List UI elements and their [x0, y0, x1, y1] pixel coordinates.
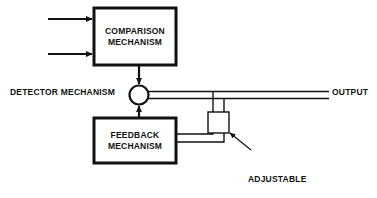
comparison-label-line2: MECHANISM — [108, 37, 162, 48]
feedback-label-line2: MECHANISM — [108, 141, 162, 152]
diagram-canvas: COMPARISON MECHANISM FEEDBACK MECHANISM … — [0, 0, 377, 198]
comparison-mechanism-label: COMPARISON MECHANISM — [94, 8, 176, 65]
feedback-label-line1: FEEDBACK — [111, 130, 160, 141]
gain-label-line1: ADJUSTABLE — [248, 174, 307, 185]
summing-junction-circle — [130, 86, 149, 105]
gain-leader-line — [230, 133, 251, 150]
adjustable-gain-mechanism-label: ADJUSTABLE GAIN MECHANISM — [248, 152, 307, 198]
detector-mechanism-label: DETECTOR MECHANISM — [10, 88, 115, 98]
feedback-mechanism-label: FEEDBACK MECHANISM — [94, 118, 176, 163]
output-label: OUTPUT — [332, 88, 368, 98]
comparison-label-line1: COMPARISON — [105, 26, 165, 37]
adjustable-gain-box — [208, 112, 229, 133]
block-diagram-svg — [0, 0, 377, 198]
